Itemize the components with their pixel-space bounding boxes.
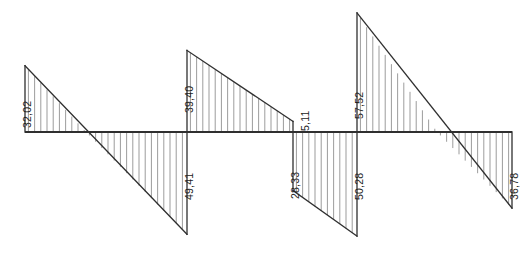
value-label-v-36-78: 36,78 [509,173,520,200]
value-label-v-57-52: 57,52 [354,92,365,119]
segment-slope-span-3 [293,191,357,236]
value-label-v-5-11: 5,11 [300,111,311,131]
value-label-v-50-28: 50,28 [354,173,365,200]
segment-slope-span-4 [357,13,512,208]
value-label-v-39-40: 39,40 [184,86,195,113]
outline-group [25,13,512,236]
segment-slope-span-1 [25,66,187,235]
hatching-group [28,18,508,233]
value-label-v-28-33: 28,33 [290,172,301,199]
value-label-v-32-02: 32,02 [22,101,33,128]
value-label-v-49-41: 49,41 [184,173,195,200]
